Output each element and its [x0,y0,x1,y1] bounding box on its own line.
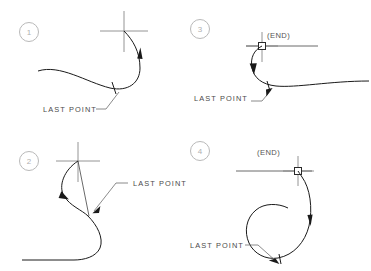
panel-2-number-badge: 2 [20,152,39,171]
panel-2-last-point-label: LAST POINT [133,179,187,188]
panel-2: 2 LAST POINT [20,142,188,260]
panel-3-last-point-label: LAST POINT [194,94,248,103]
panel-1-number: 1 [27,28,32,37]
diagram-canvas: 1 LAST POINT 2 [0,0,371,271]
panel-3-leader-arrowhead [266,88,273,97]
panel-4-number: 4 [198,147,203,156]
panel-4-last-point-label: LAST POINT [190,241,244,250]
panel-2-leader-line [94,183,128,211]
panel-3-number: 3 [198,25,203,34]
panel-3-curve [251,46,369,86]
figure-svg: 1 LAST POINT 2 [0,0,371,271]
panel-2-tangent-line [78,161,89,216]
panel-3: 3 (END) LAST POINT [191,20,370,104]
panel-4-leader-line [245,245,277,262]
panel-2-number: 2 [27,157,32,166]
panel-1-curve [38,31,140,89]
panel-4-leader-arrowhead [269,259,280,264]
panel-3-number-badge: 3 [191,20,210,39]
panel-4-end-label: (END) [257,148,280,157]
panel-4-direction-arrow [307,215,312,227]
panel-3-end-label: (END) [267,31,290,40]
panel-1-leader-line [96,92,119,109]
panel-1-number-badge: 1 [20,23,39,42]
panel-1-last-point-label: LAST POINT [43,105,97,114]
panel-4-last-point-tick [279,254,281,264]
panel-4: 4 (END) LAST POINT [190,142,314,265]
panel-1: 1 LAST POINT [20,11,149,114]
panel-4-number-badge: 4 [191,142,210,161]
panel-2-curve [22,161,101,260]
panel-2-leader-arrowhead [92,206,100,213]
panel-2-direction-arrow [59,191,69,199]
